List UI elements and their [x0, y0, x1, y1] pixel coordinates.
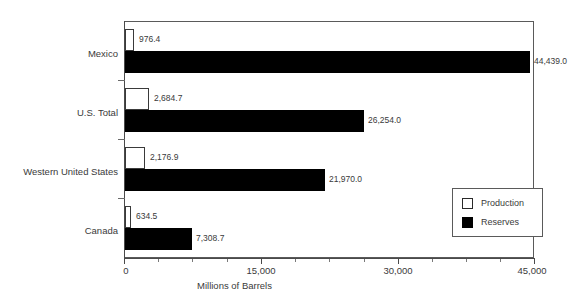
bar-group-us-total: 2,684.7 26,254.0: [125, 80, 579, 139]
x-axis-tick-label-15000: 15,000: [246, 266, 275, 276]
legend: Production Reserves: [452, 188, 543, 237]
bar-us-total-reserves[interactable]: [125, 110, 364, 132]
bar-group-mexico: 976.4 44,439.0: [125, 21, 579, 80]
x-axis-tick-0: [124, 259, 125, 264]
category-label-canada: Canada: [0, 226, 118, 236]
bar-value-mexico-reserves: 44,439.0: [534, 57, 567, 66]
x-axis-tick-label-45000: 45,000: [517, 266, 546, 276]
bar-value-mexico-production: 976.4: [139, 35, 160, 44]
x-axis-title: Millions of Barrels: [0, 281, 524, 291]
x-axis-minor-tick: [432, 259, 433, 262]
bar-western-us-production[interactable]: [125, 147, 145, 169]
x-axis-tick-15000: [261, 259, 262, 264]
x-axis-minor-tick: [158, 259, 159, 262]
bar-value-canada-reserves: 7,308.7: [196, 234, 224, 243]
category-label-western-united-states: Western United States: [0, 167, 118, 177]
bar-value-canada-production: 634.5: [136, 212, 157, 221]
bar-canada-reserves[interactable]: [125, 228, 192, 250]
y-axis-tick: [118, 198, 125, 199]
bar-mexico-reserves[interactable]: [125, 51, 530, 73]
legend-label-reserves: Reserves: [481, 218, 519, 227]
bar-us-total-production[interactable]: [125, 88, 149, 110]
bar-value-us-total-production: 2,684.7: [154, 94, 182, 103]
bar-value-western-us-reserves: 21,970.0: [329, 175, 362, 184]
production-swatch-icon: [462, 198, 473, 209]
category-label-mexico: Mexico: [0, 49, 118, 59]
x-axis-minor-tick: [295, 259, 296, 262]
x-axis-minor-tick: [192, 259, 193, 262]
x-axis-tick-45000: [534, 259, 535, 264]
x-axis-tick-label-30000: 30,000: [383, 266, 412, 276]
bar-value-western-us-production: 2,176.9: [150, 153, 178, 162]
bar-canada-production[interactable]: [125, 206, 131, 228]
x-axis-minor-tick: [500, 259, 501, 262]
reserves-swatch-icon: [462, 217, 473, 228]
x-axis-tick-label-0: 0: [123, 266, 128, 276]
x-axis-minor-tick: [227, 259, 228, 262]
y-axis-tick: [118, 139, 125, 140]
x-axis-minor-tick: [329, 259, 330, 262]
legend-label-production: Production: [481, 199, 524, 208]
x-axis-minor-tick: [364, 259, 365, 262]
bar-mexico-production[interactable]: [125, 29, 134, 51]
x-axis-tick-30000: [398, 259, 399, 264]
category-label-us-total: U.S. Total: [0, 108, 118, 118]
bar-value-us-total-reserves: 26,254.0: [368, 116, 401, 125]
x-axis-minor-tick: [466, 259, 467, 262]
bar-western-us-reserves[interactable]: [125, 169, 325, 191]
bar-chart: Mexico 976.4 44,439.0 U.S. Total 2,684.7…: [0, 0, 579, 305]
y-axis-tick: [118, 80, 125, 81]
